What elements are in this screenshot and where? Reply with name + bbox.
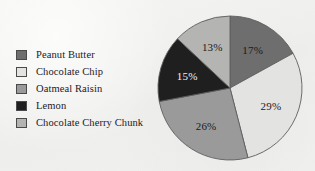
legend-swatch-chocolate-cherry-chunk [16,118,27,128]
legend-swatch-lemon [16,101,27,111]
legend-item-chocolate-chip: Chocolate Chip [16,63,158,80]
legend-item-peanut-butter: Peanut Butter [16,46,158,63]
legend-item-lemon: Lemon [16,97,158,114]
legend-label-lemon: Lemon [36,100,66,111]
legend-swatch-peanut-butter [16,50,27,60]
chart-legend: Peanut Butter Chocolate Chip Oatmeal Rai… [16,46,158,131]
legend-label-oatmeal-raisin: Oatmeal Raisin [36,83,102,94]
legend-item-oatmeal-raisin: Oatmeal Raisin [16,80,158,97]
legend-label-peanut-butter: Peanut Butter [36,49,95,60]
legend-label-chocolate-chip: Chocolate Chip [36,66,103,77]
legend-swatch-oatmeal-raisin [16,84,27,94]
legend-swatch-chocolate-chip [16,67,27,77]
legend-label-chocolate-cherry-chunk: Chocolate Cherry Chunk [36,117,143,128]
legend-item-chocolate-cherry-chunk: Chocolate Cherry Chunk [16,114,158,131]
